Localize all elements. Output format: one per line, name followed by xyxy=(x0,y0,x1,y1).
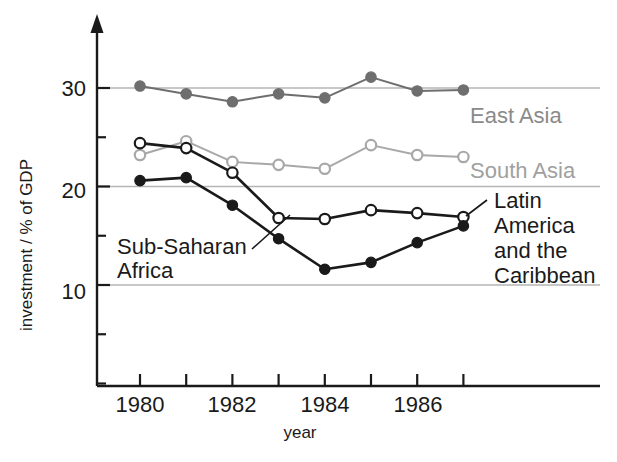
data-point xyxy=(273,89,283,99)
data-point xyxy=(320,164,330,174)
data-point xyxy=(412,150,422,160)
data-point xyxy=(135,175,145,185)
y-axis xyxy=(91,14,104,386)
x-tick-label-1980: 1980 xyxy=(116,392,165,417)
annotation-sub-saharan-line2: Africa xyxy=(117,258,174,283)
series-east-asia xyxy=(135,72,469,107)
annotation-latin-line2: America xyxy=(494,213,575,238)
annotation-latin-line4: Caribbean xyxy=(494,263,596,288)
annotation-latin-line3: and the xyxy=(494,238,567,263)
annotation-east-asia: East Asia xyxy=(470,103,562,128)
x-tick-label-1984: 1984 xyxy=(301,392,350,417)
annotation-south-asia: South Asia xyxy=(470,158,576,183)
data-point xyxy=(412,86,422,96)
x-axis-title: year xyxy=(283,423,316,442)
data-point xyxy=(320,214,330,224)
data-point xyxy=(458,221,468,231)
data-point xyxy=(181,143,191,153)
y-tick-label-20: 20 xyxy=(62,178,86,203)
x-tick-label-1982: 1982 xyxy=(208,392,257,417)
data-point xyxy=(458,85,468,95)
series-south-asia xyxy=(135,136,469,174)
data-point xyxy=(273,160,283,170)
data-point xyxy=(227,157,237,167)
data-point xyxy=(366,140,376,150)
y-axis-ticks xyxy=(97,88,110,384)
data-point xyxy=(366,72,376,82)
data-point xyxy=(135,81,145,91)
annotation-sub-saharan-line1: Sub-Saharan xyxy=(117,234,247,259)
data-point xyxy=(227,200,237,210)
annotation-latin-line1: Latin xyxy=(494,188,542,213)
data-point xyxy=(320,93,330,103)
y-tick-label-10: 10 xyxy=(62,279,86,304)
data-point xyxy=(320,264,330,274)
y-axis-title: investment / % of GDP xyxy=(17,159,36,331)
y-tick-label-30: 30 xyxy=(62,76,86,101)
data-point xyxy=(412,208,422,218)
data-point xyxy=(135,150,145,160)
data-point xyxy=(273,234,283,244)
x-tick-label-1986: 1986 xyxy=(394,392,443,417)
data-point xyxy=(366,257,376,267)
data-point xyxy=(181,89,191,99)
series-sub-saharan-africa xyxy=(135,172,469,274)
data-point xyxy=(227,168,237,178)
data-point xyxy=(135,138,145,148)
data-point xyxy=(181,172,191,182)
chart-container: investment / % of GDP year 30 20 10 1980… xyxy=(0,0,617,462)
data-point xyxy=(227,97,237,107)
data-point xyxy=(366,205,376,215)
x-axis-ticks xyxy=(140,374,463,386)
data-point xyxy=(458,152,468,162)
investment-gdp-line-chart: investment / % of GDP year 30 20 10 1980… xyxy=(0,0,617,462)
data-point xyxy=(412,237,422,247)
